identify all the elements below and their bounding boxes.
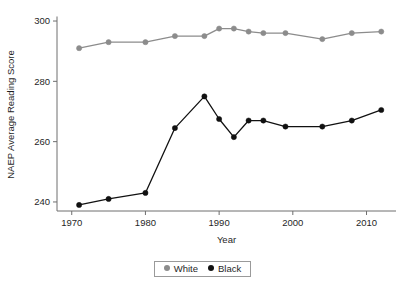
y-tick-label: 260 [34,136,50,147]
data-point [202,33,207,38]
data-point [349,30,354,35]
data-point [172,125,177,130]
data-point [172,33,177,38]
legend-entry-white[interactable]: White [164,264,198,274]
data-point [246,118,251,123]
x-tick-label: 2010 [356,217,377,228]
chart-legend: WhiteBlack [0,261,405,278]
data-point [217,26,222,31]
data-point [283,30,288,35]
x-tick-label: 1980 [135,217,156,228]
series-line-black [79,96,381,205]
data-point [106,196,111,201]
y-axis-title: NAEP Average Reading Score [5,50,16,179]
data-point [261,118,266,123]
x-axis-title: Year [217,234,236,245]
data-point [106,40,111,45]
data-point [261,30,266,35]
legend-marker-icon [164,265,170,271]
data-point [217,116,222,121]
data-point [202,94,207,99]
data-point [320,124,325,129]
data-point [77,46,82,51]
legend-container: WhiteBlack [154,261,252,278]
line-chart-plot: 24026028030019701980199020002010YearNAEP… [0,0,405,283]
data-point [77,202,82,207]
y-tick-label: 240 [34,196,50,207]
series-line-white [79,29,381,49]
legend-label: Black [218,264,241,274]
data-point [320,37,325,42]
data-point [349,118,354,123]
y-tick-label: 300 [34,15,50,26]
data-point [231,26,236,31]
y-tick-label: 280 [34,76,50,87]
data-point [143,190,148,195]
x-tick-label: 1970 [61,217,82,228]
data-point [379,107,384,112]
data-point [143,40,148,45]
data-point [283,124,288,129]
data-point [231,135,236,140]
data-point [246,29,251,34]
chart-figure: 24026028030019701980199020002010YearNAEP… [0,0,405,283]
legend-entry-black[interactable]: Black [208,264,241,274]
x-tick-label: 2000 [282,217,303,228]
data-point [379,29,384,34]
x-tick-label: 1990 [209,217,230,228]
series-black [77,94,384,208]
legend-label: White [174,264,198,274]
legend-marker-icon [208,265,214,271]
series-white [77,26,384,51]
